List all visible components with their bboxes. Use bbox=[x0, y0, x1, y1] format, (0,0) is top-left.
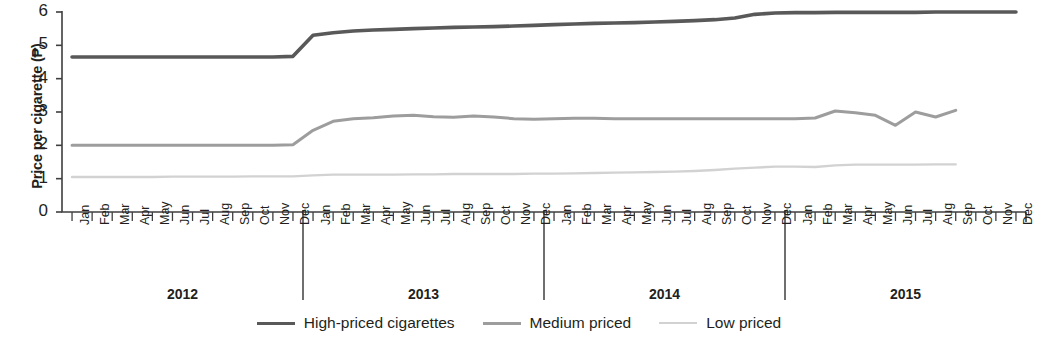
axis-spine bbox=[62, 11, 1026, 212]
x-axis-month-label: Feb bbox=[339, 203, 353, 225]
legend-label: Low priced bbox=[706, 314, 781, 332]
x-axis-month-label: Mar bbox=[600, 203, 614, 225]
legend-line-swatch bbox=[483, 322, 521, 325]
x-axis-month-label: Mar bbox=[841, 203, 855, 225]
x-axis-month-label: Oct bbox=[981, 206, 995, 225]
x-axis-month-label: Dec bbox=[1021, 203, 1035, 225]
x-axis-month-label: Apr bbox=[861, 206, 875, 225]
legend-line-swatch bbox=[257, 322, 295, 325]
x-axis-month-label: Jan bbox=[560, 205, 574, 225]
x-axis-month-label: Jan bbox=[319, 205, 333, 225]
x-axis-month-label: Jan bbox=[78, 205, 92, 225]
x-axis-year-label: 2015 bbox=[785, 286, 1026, 302]
y-axis-tick-label: 6 bbox=[22, 1, 48, 21]
x-axis-month-label: Dec bbox=[780, 203, 794, 225]
x-axis-month-label: Jun bbox=[178, 205, 192, 225]
legend-item[interactable]: High-priced cigarettes bbox=[257, 314, 455, 332]
x-axis-year-label: 2013 bbox=[303, 286, 544, 302]
series-line bbox=[72, 12, 1016, 57]
x-axis-month-label: Nov bbox=[278, 203, 292, 225]
legend-label: Medium priced bbox=[530, 314, 632, 332]
x-axis-month-label: Aug bbox=[941, 203, 955, 225]
y-axis-tick-label: 3 bbox=[22, 101, 48, 121]
y-axis-tick-label: 0 bbox=[22, 201, 48, 221]
x-axis-month-label: Sep bbox=[720, 203, 734, 225]
y-axis-tick-label: 5 bbox=[22, 34, 48, 54]
x-axis-month-label: Nov bbox=[519, 203, 533, 225]
x-axis-month-label: Feb bbox=[821, 203, 835, 225]
x-axis-month-label: Jul bbox=[198, 209, 212, 225]
x-axis-month-label: May bbox=[158, 201, 172, 225]
x-axis-year-label: 2014 bbox=[544, 286, 785, 302]
legend-item[interactable]: Medium priced bbox=[483, 314, 632, 332]
x-axis-month-label: Mar bbox=[118, 203, 132, 225]
x-axis-month-label: Apr bbox=[138, 206, 152, 225]
x-axis-month-label: Jun bbox=[660, 205, 674, 225]
series-line bbox=[72, 164, 956, 177]
y-axis-tick-label: 4 bbox=[22, 68, 48, 88]
legend-line-swatch bbox=[659, 322, 697, 324]
x-axis-month-label: Nov bbox=[1001, 203, 1015, 225]
x-axis-month-label: Aug bbox=[459, 203, 473, 225]
chart-legend: High-priced cigarettesMedium pricedLow p… bbox=[0, 314, 1038, 332]
x-axis-month-label: Oct bbox=[740, 206, 754, 225]
x-axis-month-label: Jun bbox=[419, 205, 433, 225]
x-axis-month-label: May bbox=[881, 201, 895, 225]
x-axis-month-label: Dec bbox=[298, 203, 312, 225]
x-axis-month-label: Feb bbox=[580, 203, 594, 225]
x-axis-month-label: Oct bbox=[258, 206, 272, 225]
x-axis-month-label: Sep bbox=[479, 203, 493, 225]
y-axis-tick-label: 1 bbox=[22, 168, 48, 188]
x-axis-month-label: May bbox=[640, 201, 654, 225]
x-axis-month-label: Aug bbox=[700, 203, 714, 225]
series-line bbox=[72, 110, 956, 145]
x-axis-month-label: Nov bbox=[760, 203, 774, 225]
x-axis-month-label: Jul bbox=[439, 209, 453, 225]
x-axis-month-label: Jul bbox=[921, 209, 935, 225]
x-axis-month-label: Aug bbox=[218, 203, 232, 225]
x-axis-month-label: Mar bbox=[359, 203, 373, 225]
x-axis-month-label: May bbox=[399, 201, 413, 225]
y-axis-tick-label: 2 bbox=[22, 134, 48, 154]
x-axis-month-label: Jan bbox=[801, 205, 815, 225]
x-axis-month-label: Sep bbox=[238, 203, 252, 225]
x-axis-month-label: Sep bbox=[961, 203, 975, 225]
price-per-cigarette-line-chart: Price per cigarette (₱) 0123456 JanFebMa… bbox=[0, 0, 1038, 344]
x-axis-month-label: Jul bbox=[680, 209, 694, 225]
legend-label: High-priced cigarettes bbox=[304, 314, 455, 332]
x-axis-month-label: Dec bbox=[539, 203, 553, 225]
x-axis-year-label: 2012 bbox=[62, 286, 303, 302]
x-axis-month-label: Jun bbox=[901, 205, 915, 225]
x-axis-month-label: Oct bbox=[499, 206, 513, 225]
x-axis-month-label: Apr bbox=[379, 206, 393, 225]
x-axis-month-label: Feb bbox=[98, 203, 112, 225]
legend-item[interactable]: Low priced bbox=[659, 314, 781, 332]
x-axis-month-label: Apr bbox=[620, 206, 634, 225]
